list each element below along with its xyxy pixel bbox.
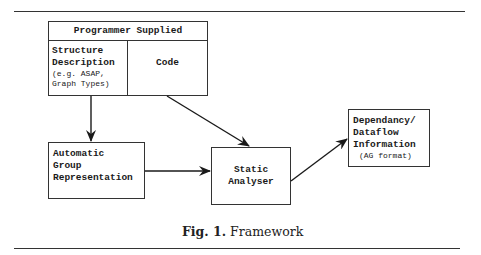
arrow-static-to-dependency [291, 139, 347, 181]
caption-text: Framework [230, 224, 303, 239]
arrows-layer [0, 0, 481, 255]
figure-caption: Fig. 1. Framework [182, 224, 303, 239]
caption-label: Fig. 1. [182, 224, 226, 239]
bottom-rule [14, 248, 460, 249]
arrow-code-to-static [167, 96, 249, 146]
